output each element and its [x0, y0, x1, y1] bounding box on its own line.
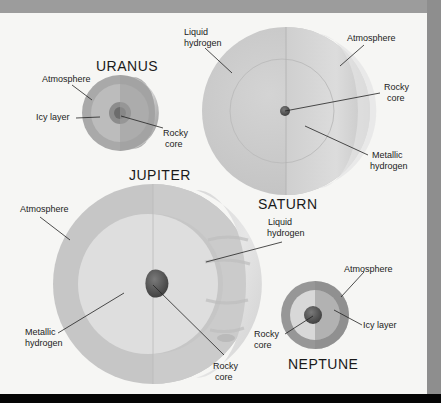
neptune-rocky-core — [304, 306, 322, 324]
jupiter-atmosphere-label: Atmosphere — [20, 204, 69, 215]
neptune-icy-layer-label: Icy layer — [363, 320, 397, 331]
uranus-illustration — [82, 75, 159, 151]
jupiter-title: JUPITER — [129, 167, 191, 183]
saturn-title: SATURN — [258, 196, 318, 212]
saturn-atmosphere-label: Atmosphere — [347, 33, 396, 44]
neptune-rocky-core-label-line1: Rocky — [254, 329, 279, 340]
saturn-metallic-hydrogen-label-line1: Metallic — [372, 150, 403, 161]
jupiter-rocky-core-label-line2: core — [215, 372, 233, 383]
jupiter-liquid-hydrogen-label-line1: Liquid — [268, 217, 292, 228]
jupiter-liquid-hydrogen-label-line2: hydrogen — [267, 228, 305, 239]
jupiter-illustration — [53, 184, 262, 384]
jupiter-metallic-hydrogen-label-line2: hydrogen — [25, 338, 63, 349]
uranus-rocky-core-label-line1: Rocky — [163, 128, 188, 139]
saturn-illustration — [202, 27, 376, 195]
saturn-rocky-core-label-line1: Rocky — [384, 82, 409, 93]
saturn-rocky-core-label-line2: core — [387, 93, 405, 104]
jupiter-metallic-hydrogen-label-line1: Metallic — [25, 327, 56, 338]
neptune-illustration — [281, 281, 349, 349]
saturn-liquid-hydrogen-label-line1: Liquid — [184, 27, 208, 38]
neptune-atmosphere-label: Atmosphere — [344, 264, 393, 275]
jupiter-rocky-core-label-line1: Rocky — [213, 361, 238, 372]
uranus-title: URANUS — [96, 58, 158, 74]
neptune-title: NEPTUNE — [288, 356, 358, 372]
uranus-icy-layer-label: Icy layer — [36, 112, 70, 123]
planet-illustrations — [0, 0, 441, 403]
uranus-rocky-core-label-line2: core — [165, 139, 183, 150]
saturn-metallic-hydrogen-label-line2: hydrogen — [370, 161, 408, 172]
neptune-rocky-core-label-line2: core — [254, 340, 272, 351]
saturn-liquid-hydrogen-label-line2: hydrogen — [184, 38, 222, 49]
uranus-atmosphere-label: Atmosphere — [42, 74, 91, 85]
